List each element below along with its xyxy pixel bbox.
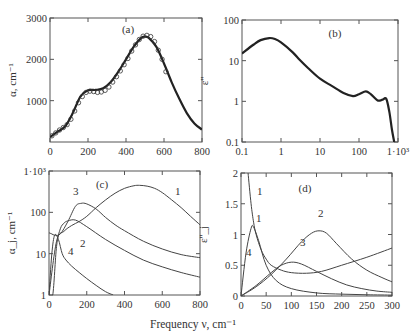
x-tick-label: 1·10³ <box>387 146 409 157</box>
curve-number-label: 2 <box>80 237 86 249</box>
series-curve-2 <box>49 220 200 299</box>
y-tick-label: 3000 <box>26 13 47 24</box>
x-tick-label: 0 <box>46 299 51 310</box>
x-tick-label: 200 <box>334 300 350 311</box>
x-tick-label: 800 <box>194 146 210 157</box>
x-tick-label: 0 <box>238 300 243 311</box>
panel-title: (c) <box>96 178 109 191</box>
plot-frame <box>50 18 202 142</box>
y-tick-label: 2000 <box>26 54 47 65</box>
y-tick-label: 100 <box>223 15 239 26</box>
curve-number-label: 3 <box>300 236 306 248</box>
figure-canvas: 0200400600800100020003000α, cm⁻¹(a)0.111… <box>0 0 420 336</box>
x-tick-label: 0 <box>47 146 52 157</box>
curve-number-label: 3 <box>73 185 79 197</box>
y-tick-label: 0 <box>233 291 238 302</box>
curve-number-label: 1 <box>257 185 263 197</box>
y-tick-label: 0.5 <box>225 260 238 271</box>
data-point-marker <box>103 88 107 92</box>
panel-title: (b) <box>329 27 342 40</box>
y-axis-label: α_j, cm⁻¹ <box>5 212 17 254</box>
shared-x-axis-label: Frequency ν, cm⁻¹ <box>150 317 236 331</box>
x-tick-label: 250 <box>359 300 375 311</box>
x-tick-label: 1 <box>278 146 283 157</box>
x-tick-label: 150 <box>309 300 325 311</box>
y-axis-label: ε''_j <box>197 226 209 243</box>
y-tick-label: 1 <box>233 230 238 241</box>
y-tick-label: 100 <box>30 207 46 218</box>
curve-number-label: 1 <box>175 185 181 197</box>
y-tick-label: 10 <box>229 56 240 67</box>
series-curve-3 <box>241 262 392 296</box>
series-curve-1 <box>248 173 392 273</box>
panel-title: (d) <box>299 182 312 195</box>
curve-number-label: 2 <box>318 207 324 219</box>
series-curve-fit-solid-line- <box>50 37 202 138</box>
y-tick-label: 0.1 <box>226 137 239 148</box>
series-curve-- <box>242 38 394 142</box>
x-tick-label: 200 <box>80 146 96 157</box>
panel-a: 0200400600800100020003000α, cm⁻¹(a) <box>6 13 210 157</box>
x-tick-label: 200 <box>79 299 95 310</box>
x-tick-label: 50 <box>261 300 272 311</box>
series-curve-4 <box>241 225 392 296</box>
y-tick-label: 1 <box>234 96 239 107</box>
panel-c: 02004006008001101001·10³α_j, cm⁻¹(c)1234 <box>5 166 208 310</box>
curve-number-label: 4 <box>246 246 252 258</box>
y-tick-label: 1000 <box>26 96 47 107</box>
series-curve-2 <box>241 231 392 296</box>
y-tick-label: 1.5 <box>225 199 238 210</box>
x-tick-label: 800 <box>192 299 208 310</box>
curve-number-label: 1 <box>256 212 262 224</box>
y-tick-label: 1 <box>41 290 46 301</box>
y-tick-label: 1·10³ <box>24 166 46 177</box>
series-curve-1 <box>49 185 200 295</box>
x-tick-label: 400 <box>118 146 134 157</box>
x-tick-label: 600 <box>154 299 170 310</box>
x-tick-label: 100 <box>351 146 367 157</box>
curve-number-label: 4 <box>68 245 74 257</box>
panel-title: (a) <box>122 23 135 36</box>
x-tick-label: 100 <box>283 300 299 311</box>
plot-frame <box>241 173 392 296</box>
panel-d: 05010015020025030000.511.52ε''_j(d)12341 <box>197 168 400 311</box>
x-tick-label: 600 <box>156 146 172 157</box>
x-tick-label: 400 <box>117 299 133 310</box>
y-tick-label: 10 <box>36 249 47 260</box>
y-axis-label: α, cm⁻¹ <box>6 63 18 97</box>
panel-b: 0.11101001·10³0.1110100ε''(b) <box>198 15 409 157</box>
x-tick-label: 10 <box>315 146 326 157</box>
y-tick-label: 2 <box>233 168 238 179</box>
x-tick-label: 300 <box>384 300 400 311</box>
y-axis-label: ε'' <box>198 77 210 86</box>
